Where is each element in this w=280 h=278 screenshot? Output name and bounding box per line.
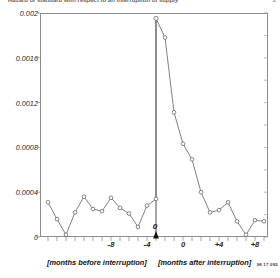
y-tick-marks-right: [264, 13, 268, 237]
chart-canvas: [0, 9, 280, 278]
caption-before-interruption: [months before interruption]: [47, 258, 147, 267]
y-tick-marks: [36, 13, 40, 237]
page-number: 2: [273, 0, 276, 3]
interruption-arrow-icon: [153, 231, 159, 239]
caption-after-interruption: [months after interruption]: [158, 258, 251, 267]
page-title: Hazard of standard with respect to an in…: [8, 0, 272, 3]
page-header-strip: Hazard of standard with respect to an in…: [0, 0, 280, 9]
figure-reference-code: 98 17 095: [257, 262, 278, 267]
hazard-chart-figure: 0 0.0004 0.0008 0.0012 0.0016 0.002 -8 -…: [0, 9, 280, 278]
